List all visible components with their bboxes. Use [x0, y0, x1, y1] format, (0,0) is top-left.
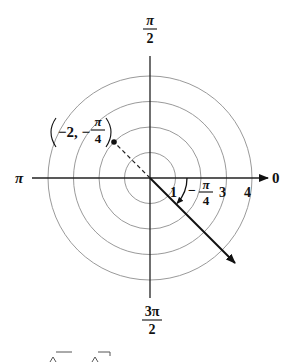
cut-off-footer-math — [50, 352, 110, 362]
ring-label-4: 4 — [244, 185, 251, 200]
svg-text:4: 4 — [95, 131, 102, 146]
angle-arc-icon — [177, 178, 187, 203]
svg-text:π: π — [146, 13, 154, 28]
svg-text:π: π — [202, 177, 210, 192]
dashed-segment-to-point — [115, 143, 150, 178]
svg-text:2: 2 — [149, 322, 156, 337]
label-3pi-over-2: 3π 2 — [142, 304, 162, 337]
svg-text:2: 2 — [147, 31, 154, 46]
point-marker — [111, 139, 117, 145]
label-pi-over-2: π 2 — [143, 13, 157, 46]
right-paren — [106, 118, 111, 147]
svg-text:3π: 3π — [145, 304, 160, 319]
left-paren — [51, 118, 56, 147]
svg-text:−: − — [188, 183, 196, 198]
svg-text:−2, −: −2, − — [58, 124, 90, 140]
ring-label-3: 3 — [219, 185, 226, 200]
label-pi: π — [15, 170, 24, 186]
ring-label-1: 1 — [170, 185, 177, 200]
svg-text:4: 4 — [203, 193, 210, 208]
polar-diagram: π 2 3π 2 π 0 1 3 4 − π 4 −2, − π 4 — [0, 0, 287, 362]
svg-text:π: π — [94, 114, 102, 129]
label-zero: 0 — [272, 170, 280, 186]
